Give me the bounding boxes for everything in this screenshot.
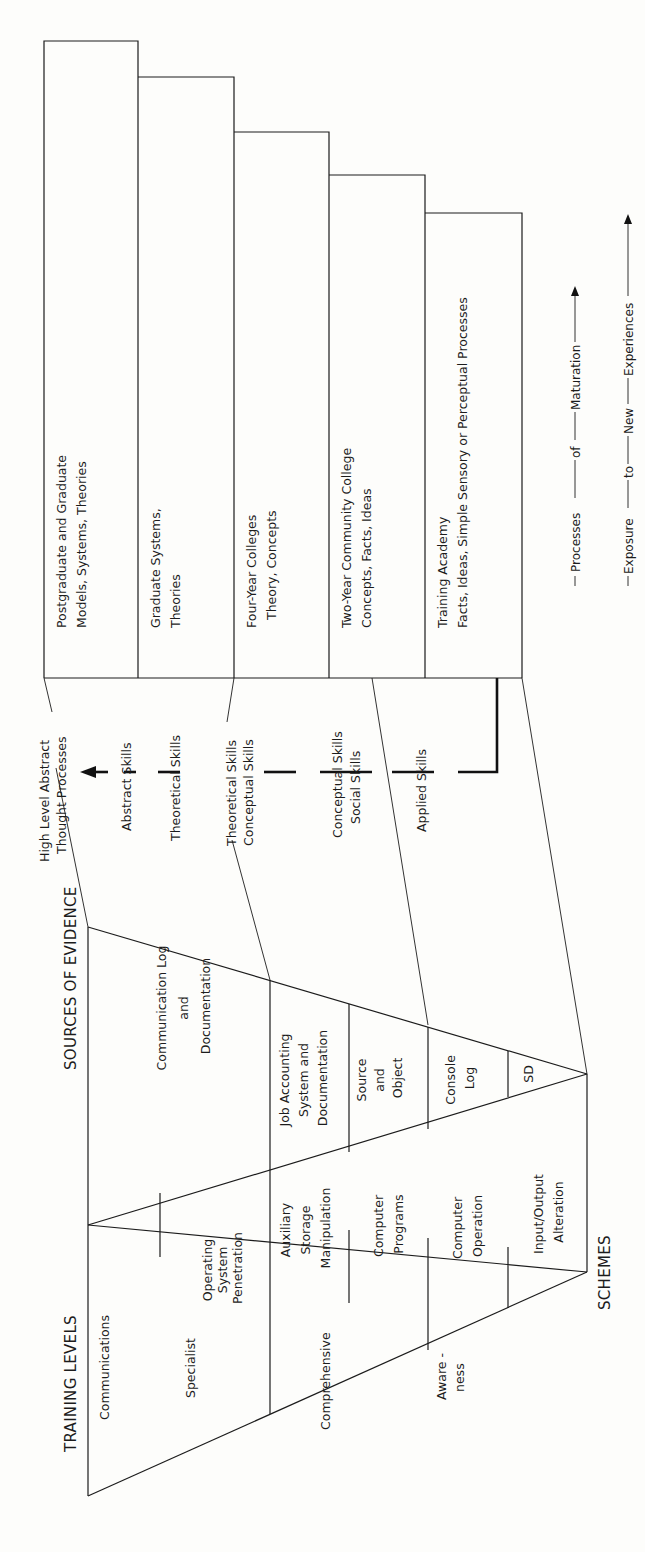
exposure-arrow-icon: [624, 214, 632, 224]
step-four-year: Four-Year Colleges Theory, Concepts: [244, 510, 279, 628]
skill-theoretical: Theoretical Skills: [168, 735, 183, 842]
level-comprehensive: Comprehensive: [318, 1332, 333, 1430]
scheme-computer-operation: Computer Operation: [450, 1193, 485, 1259]
svg-text:Maturation: Maturation: [569, 345, 583, 410]
svg-text:to: to: [622, 466, 636, 478]
svg-text:Exposure: Exposure: [622, 518, 636, 574]
skill-theoretical-conceptual: Theoretical Skills Conceptual Skills: [224, 736, 256, 847]
education-staircase: [44, 41, 522, 678]
progression-arrow: [80, 678, 497, 778]
source-communication-log: Communication Log and Documentation: [154, 942, 213, 1071]
step-training-academy: Training Academy Facts, Ideas, Simple Se…: [435, 297, 470, 629]
arrow-head-icon: [80, 766, 96, 778]
level-specialist: Specialist: [183, 1338, 198, 1398]
svg-text:Experiences: Experiences: [622, 303, 636, 376]
scheme-aux-storage: Auxiliary Storage Manipulation: [278, 1188, 333, 1269]
scheme-io-alteration: Input/Output Alteration: [531, 1170, 566, 1254]
svg-text:Processes: Processes: [569, 513, 583, 572]
source-sd: SD: [521, 1065, 536, 1083]
skill-conceptual-social: Conceptual Skills Social Skills: [330, 727, 363, 838]
training-diagram: TRAINING LEVELS SOURCES OF EVIDENCE SCHE…: [0, 0, 645, 1552]
source-job-accounting: Job Accounting System and Documentation: [277, 1029, 330, 1127]
header-schemes: SCHEMES: [596, 1235, 614, 1310]
scheme-os-penetration: Operating System Penetration: [200, 1232, 245, 1304]
step-graduate: Graduate Systems, Theories: [148, 504, 183, 629]
exposure-axis: Exposure to New Experiences: [622, 214, 636, 586]
svg-text:New: New: [622, 408, 636, 434]
skill-high-level-abstract: High Level Abstract Thought Processes: [37, 736, 69, 862]
maturation-arrow-icon: [571, 286, 579, 296]
source-source-object: Source and Object: [354, 1055, 405, 1102]
fan-lines: [44, 678, 587, 1074]
level-awareness: Aware - ness: [434, 1349, 467, 1400]
step-two-year: Two-Year Community College Concepts, Fac…: [339, 444, 374, 629]
header-sources-of-evidence: SOURCES OF EVIDENCE: [62, 887, 80, 1071]
skill-abstract: Abstract Skills: [119, 742, 134, 831]
skill-applied: Applied Skills: [414, 749, 429, 832]
svg-text:of: of: [569, 446, 583, 458]
header-training-levels: TRAINING LEVELS: [62, 1315, 80, 1453]
scheme-computer-programs: Computer Programs: [371, 1191, 406, 1257]
source-console-log: Console Log: [443, 1051, 477, 1105]
level-communications: Communications: [97, 1315, 112, 1420]
maturation-axis: Processes of Maturation: [569, 286, 583, 586]
step-postgraduate: Postgraduate and Graduate Models, System…: [54, 451, 89, 628]
